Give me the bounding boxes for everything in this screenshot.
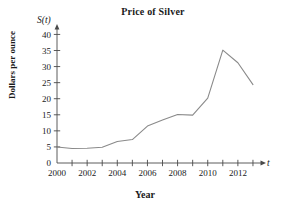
y-tick-label: 5 [47,142,52,152]
x-tick-label: 2006 [138,168,157,178]
y-tick-label: 25 [42,78,52,88]
y-axis-arrow [55,24,60,30]
y-tick-label: 0 [47,158,52,168]
y-tick-label: 30 [42,62,52,72]
silver-price-line [57,50,253,148]
x-axis: 2000200220042006200820102012 [48,160,266,178]
y-axis-variable-label: S(t) [37,15,51,26]
y-tick-label: 15 [42,110,52,120]
y-tick-label: 10 [42,126,52,136]
x-tick-label: 2012 [229,168,247,178]
x-tick-label: 2010 [199,168,218,178]
x-axis-arrow [261,161,267,166]
x-tick-label: 2002 [78,168,96,178]
y-tick-label: 35 [42,46,52,56]
x-axis-variable-label: t [267,158,270,168]
y-tick-label: 20 [42,94,52,104]
x-tick-label: 2004 [108,168,127,178]
y-tick-label: 40 [42,30,52,40]
x-tick-label: 2008 [169,168,188,178]
chart-figure: Price of Silver Dollars per ounce Year 0… [0,0,282,210]
x-tick-label: 2000 [48,168,67,178]
data-series-silver-price [57,50,253,148]
plot-area: 0510152025303540 20002002200420062008201… [0,0,282,210]
